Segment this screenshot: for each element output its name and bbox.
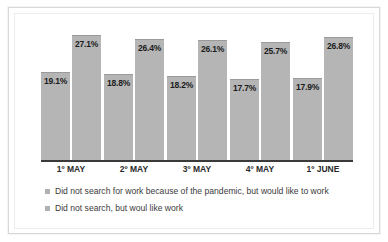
- bar-wrap: 18.2%: [167, 22, 196, 160]
- bar-wrap: 18.8%: [104, 22, 133, 160]
- bar-groups: 19.1% 27.1% 18.8%: [41, 22, 353, 160]
- bar-series1[interactable]: 19.1%: [41, 72, 70, 160]
- bar-value-label: 26.8%: [327, 41, 350, 51]
- bar-series1[interactable]: 17.9%: [293, 78, 322, 160]
- x-axis-line: [41, 160, 353, 162]
- bar-value-label: 27.1%: [75, 39, 98, 49]
- legend-swatch-icon: [45, 189, 50, 194]
- chart-legend: Did not search for work because of the p…: [15, 186, 373, 220]
- bar-group: 18.2% 26.1%: [167, 22, 227, 160]
- bar-wrap: 25.7%: [261, 22, 290, 160]
- category-label: 2º MAY: [104, 164, 164, 174]
- bar-value-label: 18.2%: [170, 80, 193, 90]
- bar-wrap: 17.7%: [230, 22, 259, 160]
- bar-series2[interactable]: 27.1%: [72, 35, 101, 160]
- bar-series2[interactable]: 25.7%: [261, 42, 290, 160]
- bar-value-label: 17.9%: [296, 82, 319, 92]
- bar-series1[interactable]: 17.7%: [230, 79, 259, 160]
- bar-value-label: 19.1%: [44, 76, 67, 86]
- bar-value-label: 18.8%: [107, 78, 130, 88]
- bar-value-label: 26.1%: [201, 44, 224, 54]
- category-label: 4º MAY: [230, 164, 290, 174]
- legend-item-series1[interactable]: Did not search for work because of the p…: [15, 186, 373, 196]
- bar-group: 17.7% 25.7%: [230, 22, 290, 160]
- bar-wrap: 19.1%: [41, 22, 70, 160]
- bar-series2[interactable]: 26.4%: [135, 39, 164, 160]
- bar-series2[interactable]: 26.1%: [198, 40, 227, 160]
- bar-wrap: 26.1%: [198, 22, 227, 160]
- bar-wrap: 26.4%: [135, 22, 164, 160]
- bar-wrap: 27.1%: [72, 22, 101, 160]
- category-label: 3º MAY: [167, 164, 227, 174]
- legend-swatch-icon: [45, 206, 50, 211]
- bar-series1[interactable]: 18.8%: [104, 74, 133, 160]
- bar-series2[interactable]: 26.8%: [324, 37, 353, 160]
- bar-series1[interactable]: 18.2%: [167, 76, 196, 160]
- bar-group: 17.9% 26.8%: [293, 22, 353, 160]
- bar-group: 19.1% 27.1%: [41, 22, 101, 160]
- bar-value-label: 17.7%: [233, 83, 256, 93]
- category-label: 1º JUNE: [293, 164, 353, 174]
- bar-wrap: 17.9%: [293, 22, 322, 160]
- bar-wrap: 26.8%: [324, 22, 353, 160]
- chart-plot-container: 19.1% 27.1% 18.8%: [14, 13, 374, 229]
- legend-item-series2[interactable]: Did not search, but woul like work: [15, 203, 373, 213]
- category-label: 1º MAY: [41, 164, 101, 174]
- legend-label: Did not search for work because of the p…: [55, 186, 329, 196]
- bar-value-label: 25.7%: [264, 46, 287, 56]
- bar-value-label: 26.4%: [138, 43, 161, 53]
- plot-area: 19.1% 27.1% 18.8%: [29, 22, 361, 162]
- category-axis-labels: 1º MAY 2º MAY 3º MAY 4º MAY 1º JUNE: [41, 164, 353, 174]
- legend-label: Did not search, but woul like work: [55, 203, 183, 213]
- chart-frame: 19.1% 27.1% 18.8%: [8, 7, 380, 234]
- bar-group: 18.8% 26.4%: [104, 22, 164, 160]
